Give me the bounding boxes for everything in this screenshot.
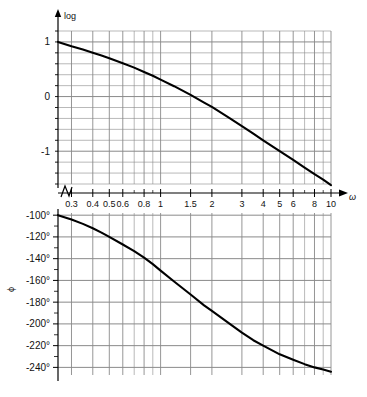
frequency-tick-label: 1.5 xyxy=(184,199,197,209)
frequency-tick-label: 4 xyxy=(261,199,266,209)
frequency-axis-label: ω xyxy=(349,192,356,202)
phase-y-tick-label: -240° xyxy=(26,362,50,373)
phase-y-tick-label: -160° xyxy=(26,275,50,286)
phase-y-tick-label: -140° xyxy=(26,253,50,264)
frequency-tick-label: 0.5 xyxy=(103,199,116,209)
phase-y-tick-label: -120° xyxy=(26,231,50,242)
phase-y-tick-label: -100° xyxy=(26,210,50,221)
frequency-tick-label: 8 xyxy=(312,199,317,209)
phase-y-tick-label: -200° xyxy=(26,318,50,329)
magnitude-y-tick-label: -1 xyxy=(41,146,50,157)
frequency-tick-label: 2 xyxy=(209,199,214,209)
magnitude-y-tick-label: 1 xyxy=(44,36,50,47)
bode-plot-figure: 10-1 0.30.40.50.60.811.523456810 -100°-1… xyxy=(0,0,367,397)
frequency-tick-label: 0.3 xyxy=(65,199,78,209)
frequency-tick-label: 3 xyxy=(239,199,244,209)
magnitude-axis-label: log xyxy=(64,11,76,21)
magnitude-y-tick-label: 0 xyxy=(44,91,50,102)
phase-y-tick-label: -220° xyxy=(26,340,50,351)
frequency-tick-label: 6 xyxy=(291,199,296,209)
frequency-tick-label: 0.8 xyxy=(138,199,151,209)
frequency-tick-label: 1 xyxy=(158,199,163,209)
phase-y-tick-label: -180° xyxy=(26,297,50,308)
phase-axis-label: ϕ xyxy=(6,287,16,292)
frequency-tick-label: 5 xyxy=(277,199,282,209)
frequency-tick-label: 0.6 xyxy=(117,199,130,209)
bode-plot-canvas: 10-1 0.30.40.50.60.811.523456810 -100°-1… xyxy=(0,0,367,397)
frequency-tick-label: 0.4 xyxy=(87,199,100,209)
frequency-tick-label: 10 xyxy=(326,199,336,209)
